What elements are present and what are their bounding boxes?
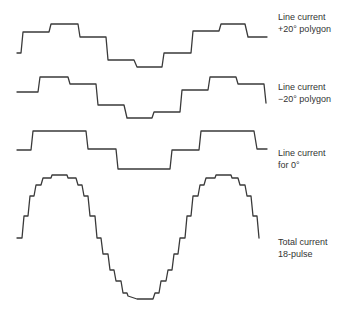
waveform-line-current-zero <box>17 131 267 169</box>
label-line2: −20° polygon <box>278 93 331 105</box>
label-line2: for 0° <box>278 159 326 171</box>
waveform-total-current-18-pulse <box>17 175 259 299</box>
waveform-line-current-minus20 <box>17 77 266 118</box>
label-line1: Line current <box>278 147 326 159</box>
label-line-current-zero: Line current for 0° <box>278 147 326 171</box>
label-line-current-plus20: Line current +20° polygon <box>278 11 331 35</box>
label-line2: 18-pulse <box>278 248 328 260</box>
label-line1: Line current <box>278 11 331 23</box>
waveform-line-current-plus20 <box>17 24 267 67</box>
harmonic-waveform-diagram: Line current +20° polygon Line current −… <box>0 0 344 314</box>
label-line-current-minus20: Line current −20° polygon <box>278 81 331 105</box>
label-line2: +20° polygon <box>278 23 331 35</box>
label-line1: Total current <box>278 236 328 248</box>
label-line1: Line current <box>278 81 331 93</box>
label-total-current: Total current 18-pulse <box>278 236 328 260</box>
